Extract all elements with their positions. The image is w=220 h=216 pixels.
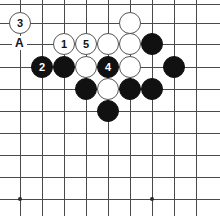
- label-leader-tick-left: [4, 44, 9, 45]
- marker-layer: A: [0, 0, 220, 216]
- point-label-a[interactable]: A: [12, 36, 27, 50]
- go-board-diagram: 31524 A: [0, 0, 220, 216]
